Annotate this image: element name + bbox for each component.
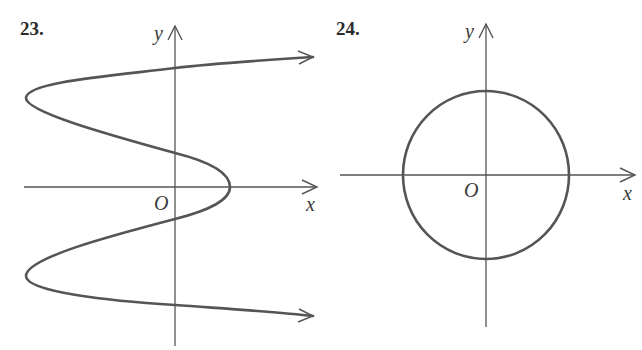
x-axis-label: x (622, 182, 632, 204)
figure-24: 24. y x O (336, 18, 635, 327)
figure-number: 24. (336, 18, 360, 39)
origin-label: O (154, 192, 168, 214)
figure-23: 23. y x O (20, 18, 317, 346)
x-axis-label: x (305, 193, 315, 215)
figures-canvas: 23. y x O 24. y x O (0, 0, 642, 350)
figure-number: 23. (20, 18, 44, 39)
y-axis-label: y (463, 20, 474, 43)
origin-label: O (464, 179, 478, 201)
y-axis-label: y (152, 22, 163, 45)
